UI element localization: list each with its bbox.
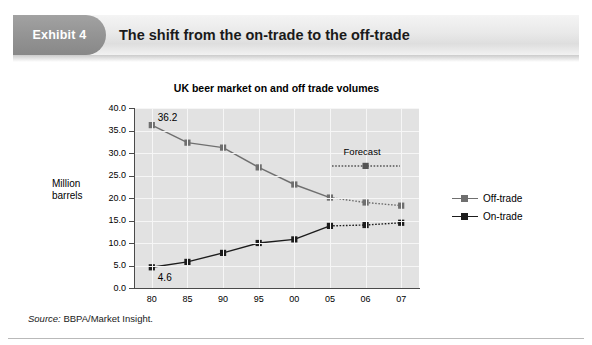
series-line-segment [294,226,330,240]
y-axis-tick-labels: 0.05.010.015.020.025.030.035.040.0 [88,108,126,289]
y-axis-tick-label: 40.0 [92,104,126,113]
line-marker-icon [452,193,478,203]
series-line-segment [223,243,259,253]
legend-label-on-trade: On-trade [483,211,522,222]
chart-title: UK beer market on and off trade volumes [134,82,419,94]
gridline-horizontal [134,243,419,244]
y-axis-tick-mark [129,221,134,222]
gridline-horizontal [134,198,419,199]
legend-item-off-trade: Off-trade [452,190,562,206]
gridline-vertical [223,108,224,288]
gridline-horizontal [134,176,419,177]
gridline-horizontal [134,221,419,222]
y-axis-line [134,108,135,289]
gridline-vertical [401,108,402,288]
forecast-annotation-label: Forecast [344,146,381,157]
source-text: BBPA/Market Insight. [61,313,153,324]
series-line-segment [223,148,259,168]
gridline-vertical [294,108,295,288]
x-axis-tick-label: 06 [351,294,381,304]
x-axis-line [134,288,420,289]
y-axis-tick-label: 20.0 [92,194,126,203]
y-axis-tick-mark [129,288,134,289]
source-keyword: Source: [28,313,61,324]
series-line-segment [187,253,223,262]
gridline-horizontal [134,108,419,109]
y-axis-tick-label: 0.0 [92,284,126,293]
y-axis-tick-mark [129,131,134,132]
y-axis-tick-label: 5.0 [92,261,126,270]
x-axis-tick-label: 85 [172,294,202,304]
legend-item-on-trade: On-trade [452,208,562,224]
x-axis-tick-labels: 8085909500050607 [134,294,420,308]
chart-legend: Off-trade On-trade [452,190,562,226]
exhibit-header-shadow [13,55,579,62]
x-axis-tick-label: 07 [386,294,416,304]
x-axis-tick-label: 90 [208,294,238,304]
gridline-vertical [366,108,367,288]
card-bottom-rule [8,338,584,339]
gridline-vertical [330,108,331,288]
source-note: Source: BBPA/Market Insight. [28,313,153,324]
forecast-line-sample-icon [332,157,400,167]
series-line-segment [330,225,366,226]
x-axis-tick-label: 05 [315,294,345,304]
legend-label-off-trade: Off-trade [483,193,522,204]
y-axis-tick-label: 30.0 [92,149,126,158]
y-axis-tick-mark [129,243,134,244]
x-axis-tick-label: 00 [279,294,309,304]
chart-container: UK beer market on and off trade volumes … [0,70,592,310]
y-axis-tick-label: 35.0 [92,126,126,135]
exhibit-number-badge: Exhibit 4 [13,15,106,55]
exhibit-number-label: Exhibit 4 [33,28,87,42]
data-label-off-trade-first: 36.2 [158,112,177,123]
series-line-segment [366,203,402,206]
x-axis-tick-label: 95 [244,294,274,304]
gridline-vertical [187,108,188,288]
gridline-vertical [259,108,260,288]
gridline-horizontal [134,131,419,132]
data-label-on-trade-first: 4.6 [158,272,172,283]
exhibit-title: The shift from the on-trade to the off-t… [119,15,410,55]
line-marker-icon [452,211,478,221]
exhibit-card: Exhibit 4 The shift from the on-trade to… [0,0,592,345]
gridline-vertical [152,108,153,288]
y-axis-tick-mark [129,176,134,177]
series-line-segment [294,185,330,198]
y-axis-tick-mark [129,153,134,154]
gridline-horizontal [134,266,419,267]
series-line-segment [152,125,188,143]
y-axis-tick-label: 15.0 [92,216,126,225]
x-axis-tick-label: 80 [137,294,167,304]
series-line-segment [366,223,402,225]
plot-area: 36.24.6Forecast [134,108,419,288]
y-axis-tick-mark [129,108,134,109]
y-axis-tick-mark [129,198,134,199]
series-line-segment [187,143,223,148]
y-axis-tick-label: 25.0 [92,171,126,180]
y-axis-tick-mark [129,266,134,267]
y-axis-tick-label: 10.0 [92,239,126,248]
